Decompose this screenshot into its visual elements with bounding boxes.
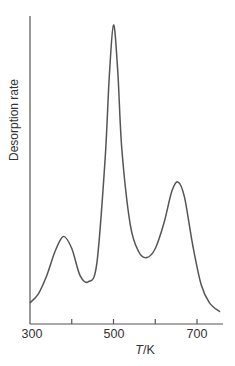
- x-axis-unit: /K: [143, 343, 155, 357]
- x-tick-label-300: 300: [22, 327, 43, 341]
- x-ticks: [72, 319, 197, 324]
- chart-canvas: [0, 0, 235, 366]
- x-tick-label-700: 700: [187, 327, 208, 341]
- x-axis-title: T/K: [135, 343, 154, 357]
- x-tick-label-500: 500: [104, 327, 125, 341]
- x-axis-symbol: T: [135, 343, 143, 357]
- y-axis-title: Desorption rate: [7, 79, 21, 161]
- desorption-curve: [30, 25, 220, 312]
